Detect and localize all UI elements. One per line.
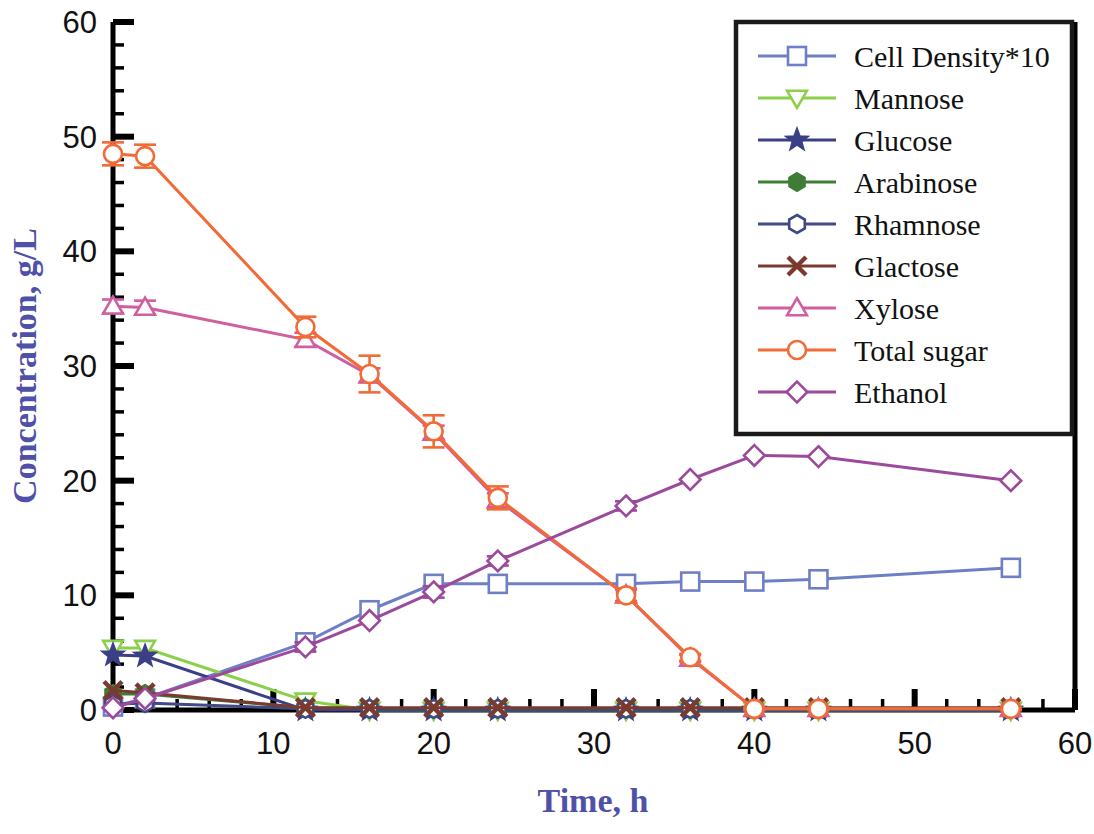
marker-circle xyxy=(425,422,443,440)
marker-circle xyxy=(1002,700,1020,718)
legend-label: Rhamnose xyxy=(854,208,981,241)
marker-circle xyxy=(681,648,699,666)
marker-circle xyxy=(809,700,827,718)
x-axis-title: Time, h xyxy=(538,782,649,819)
marker-square xyxy=(1002,559,1020,577)
marker-circle xyxy=(296,318,314,336)
y-tick-label: 40 xyxy=(63,234,97,269)
y-tick-label: 50 xyxy=(63,120,97,155)
y-tick-label: 0 xyxy=(80,693,97,728)
marker-square xyxy=(745,573,763,591)
marker-circle xyxy=(361,365,379,383)
marker-hexagon xyxy=(789,215,805,233)
legend-label: Total sugar xyxy=(854,334,988,367)
y-tick-label: 60 xyxy=(63,5,97,40)
chart-figure: 0102030405060 0102030405060 Concentratio… xyxy=(0,0,1094,834)
x-tick-label: 40 xyxy=(737,726,771,761)
legend-label: Arabinose xyxy=(854,166,977,199)
marker-square xyxy=(788,47,806,65)
x-tick-label: 50 xyxy=(897,726,931,761)
y-tick-label: 10 xyxy=(63,578,97,613)
x-tick-label: 0 xyxy=(104,726,121,761)
x-tick-label: 30 xyxy=(577,726,611,761)
legend-label: Glactose xyxy=(854,250,959,283)
x-tick-label: 20 xyxy=(416,726,450,761)
marker-circle xyxy=(788,341,806,359)
marker-circle xyxy=(489,489,507,507)
chart-legend: Cell Density*10MannoseGlucoseArabinoseRh… xyxy=(736,22,1072,434)
y-tick-label: 20 xyxy=(63,464,97,499)
marker-circle xyxy=(617,586,635,604)
y-axis-title: Concentration, g/L xyxy=(6,228,43,504)
marker-circle xyxy=(745,700,763,718)
y-tick-label: 30 xyxy=(63,349,97,384)
marker-circle xyxy=(104,145,122,163)
marker-hexagon-filled xyxy=(789,173,805,191)
legend-label: Xylose xyxy=(854,292,939,325)
legend-label: Mannose xyxy=(854,82,964,115)
x-tick-label: 10 xyxy=(256,726,290,761)
marker-square xyxy=(489,575,507,593)
marker-square xyxy=(681,573,699,591)
legend-label: Glucose xyxy=(854,124,952,157)
marker-square xyxy=(809,570,827,588)
x-tick-label: 60 xyxy=(1058,726,1092,761)
marker-circle xyxy=(136,147,154,165)
legend-label: Cell Density*10 xyxy=(854,40,1050,73)
legend-label: Ethanol xyxy=(854,376,947,409)
concentration-vs-time-line-chart: 0102030405060 0102030405060 Concentratio… xyxy=(0,0,1094,834)
